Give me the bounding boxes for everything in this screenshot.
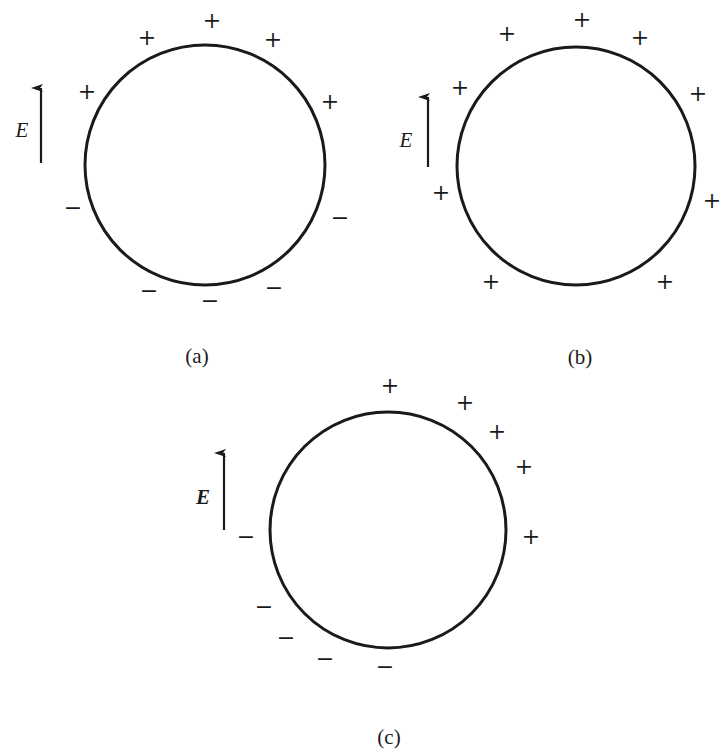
plus-charge-icon: + [522, 526, 540, 548]
minus-charge-icon: − [255, 596, 273, 618]
figure-shapes [0, 0, 727, 756]
minus-charge-icon: − [316, 648, 334, 670]
panel-caption-c: (c) [377, 725, 400, 750]
plus-charge-icon: + [631, 27, 649, 49]
plus-charge-icon: + [381, 375, 399, 397]
sphere-outline [457, 47, 695, 285]
field-label: E [400, 128, 413, 153]
minus-charge-icon: − [265, 277, 283, 299]
minus-charge-icon: − [64, 197, 82, 219]
panel-caption-a: (a) [185, 344, 208, 369]
sphere-outline [270, 412, 506, 648]
plus-charge-icon: + [488, 421, 506, 443]
plus-charge-icon: + [321, 91, 339, 113]
sphere-outline [85, 45, 325, 285]
plus-charge-icon: + [264, 29, 282, 51]
plus-charge-icon: + [78, 81, 96, 103]
plus-charge-icon: + [138, 27, 156, 49]
plus-charge-icon: + [703, 190, 721, 212]
minus-charge-icon: − [331, 207, 349, 229]
plus-charge-icon: + [482, 271, 500, 293]
minus-charge-icon: − [201, 290, 219, 312]
minus-charge-icon: − [376, 656, 394, 678]
minus-charge-icon: − [140, 280, 158, 302]
plus-charge-icon: + [498, 23, 516, 45]
charge-distribution-figure: E+++++−−−−−(a)E+++++++++(b)E+++++−−−−−(c… [0, 0, 727, 756]
plus-charge-icon: + [203, 10, 221, 32]
minus-charge-icon: − [277, 627, 295, 649]
field-label: E [196, 485, 210, 510]
panel-caption-b: (b) [568, 345, 593, 370]
plus-charge-icon: + [451, 77, 469, 99]
plus-charge-icon: + [432, 182, 450, 204]
plus-charge-icon: + [689, 83, 707, 105]
minus-charge-icon: − [237, 526, 255, 548]
field-label: E [16, 118, 29, 143]
plus-charge-icon: + [656, 271, 674, 293]
plus-charge-icon: + [515, 456, 533, 478]
plus-charge-icon: + [573, 9, 591, 31]
plus-charge-icon: + [456, 392, 474, 414]
